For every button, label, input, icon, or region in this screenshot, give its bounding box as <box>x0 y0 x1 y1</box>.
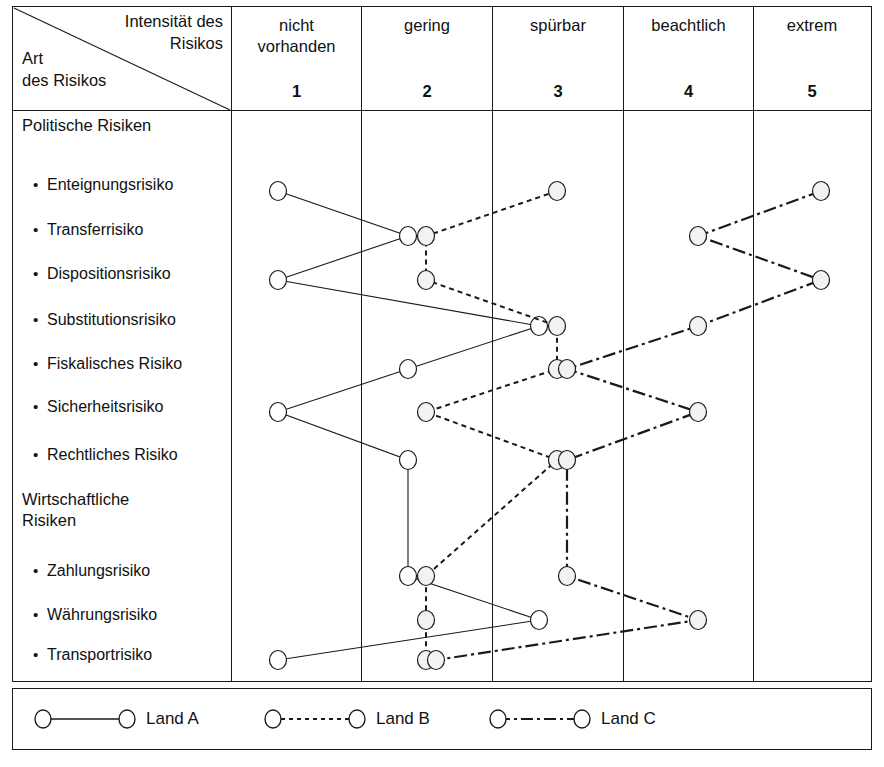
data-point[interactable] <box>400 360 417 379</box>
series-land-c <box>428 182 830 670</box>
row-label-substitutionsrisiko[interactable]: •Substitutionsrisiko <box>33 311 176 329</box>
grid-line-col0 <box>231 111 232 681</box>
data-point[interactable] <box>418 403 435 422</box>
row-label-text: Fiskalisches Risiko <box>47 355 182 372</box>
column-header-4-number: 4 <box>624 82 753 101</box>
bullet-icon: • <box>33 563 47 578</box>
column-header-1-number: 1 <box>232 82 361 101</box>
data-point[interactable] <box>549 182 566 201</box>
data-point[interactable] <box>400 567 417 586</box>
legend-label-land-a: Land A <box>146 709 199 729</box>
data-point[interactable] <box>559 360 576 379</box>
grid-line-col2 <box>492 111 493 681</box>
column-header-2-name: gering <box>362 15 492 36</box>
data-point[interactable] <box>418 651 435 670</box>
data-point[interactable] <box>270 651 287 670</box>
data-point[interactable] <box>559 567 576 586</box>
legend-item-land-b[interactable]: Land B <box>263 703 430 735</box>
data-point[interactable] <box>690 611 707 630</box>
column-header-1[interactable]: nicht vorhanden 1 <box>231 7 361 111</box>
column-header-2-number: 2 <box>362 82 492 101</box>
data-point[interactable] <box>690 317 707 336</box>
row-label-zahlungsrisiko[interactable]: •Zahlungsrisiko <box>33 562 150 580</box>
data-point[interactable] <box>270 271 287 290</box>
legend-swatch-solid-icon <box>33 708 137 730</box>
bullet-icon: • <box>33 222 47 237</box>
data-point[interactable] <box>531 317 548 336</box>
data-point[interactable] <box>531 611 548 630</box>
risk-type-axis-label: Art des Risikos <box>22 47 172 91</box>
column-header-5-number: 5 <box>754 82 870 101</box>
column-header-2[interactable]: gering 2 <box>361 7 492 111</box>
bullet-icon: • <box>33 647 47 662</box>
column-header-4[interactable]: beachtlich 4 <box>623 7 753 111</box>
header-corner-cell: Intensität des Risikos Art des Risikos <box>13 7 231 111</box>
grid-line-col1 <box>361 111 362 681</box>
legend-swatch-dashdot-icon <box>488 708 592 730</box>
bullet-icon: • <box>33 177 47 192</box>
row-label-column: Politische Risiken •Enteignungsrisiko •T… <box>13 111 231 681</box>
row-label-enteignungsrisiko[interactable]: •Enteignungsrisiko <box>33 176 173 194</box>
data-point[interactable] <box>813 182 830 201</box>
row-label-rechtliches-risiko[interactable]: •Rechtliches Risiko <box>33 446 178 464</box>
data-point[interactable] <box>270 403 287 422</box>
group-label-politische: Politische Risiken <box>22 115 151 136</box>
bullet-icon: • <box>33 447 47 462</box>
column-header-3-name: spürbar <box>493 15 623 36</box>
data-point[interactable] <box>270 182 287 201</box>
data-point[interactable] <box>418 567 435 586</box>
table-header: Intensität des Risikos Art des Risikos n… <box>13 7 871 111</box>
risk-profile-chart-page: Intensität des Risikos Art des Risikos n… <box>0 0 884 767</box>
data-point[interactable] <box>418 227 435 246</box>
row-label-text: Enteignungsrisiko <box>47 176 173 193</box>
legend-item-land-a[interactable]: Land A <box>33 703 199 735</box>
series-land-a <box>270 182 548 670</box>
series-line <box>278 191 539 660</box>
data-point[interactable] <box>428 651 445 670</box>
column-header-5[interactable]: extrem 5 <box>753 7 870 111</box>
data-point[interactable] <box>690 227 707 246</box>
row-label-text: Währungsrisiko <box>47 606 157 623</box>
row-label-transferrisiko[interactable]: •Transferrisiko <box>33 221 143 239</box>
bullet-icon: • <box>33 399 47 414</box>
row-label-text: Zahlungsrisiko <box>47 562 150 579</box>
bullet-icon: • <box>33 312 47 327</box>
row-label-text: Substitutionsrisiko <box>47 311 176 328</box>
row-label-text: Dispositionsrisiko <box>47 265 171 282</box>
column-header-3-number: 3 <box>493 82 623 101</box>
data-point[interactable] <box>549 360 566 379</box>
data-point[interactable] <box>400 227 417 246</box>
data-point[interactable] <box>690 403 707 422</box>
row-label-dispositionsrisiko[interactable]: •Dispositionsrisiko <box>33 265 171 283</box>
legend-label-land-c: Land C <box>601 709 656 729</box>
legend-label-land-b: Land B <box>376 709 430 729</box>
data-point[interactable] <box>549 317 566 336</box>
column-header-3[interactable]: spürbar 3 <box>492 7 623 111</box>
data-point[interactable] <box>813 271 830 290</box>
bullet-icon: • <box>33 266 47 281</box>
row-label-text: Transportrisiko <box>47 646 152 663</box>
bullet-icon: • <box>33 607 47 622</box>
data-point[interactable] <box>559 451 576 470</box>
row-label-sicherheitsrisiko[interactable]: •Sicherheitsrisiko <box>33 398 163 416</box>
column-header-1-name: nicht vorhanden <box>232 15 361 58</box>
group-label-wirtschaftliche: Wirtschaftliche Risiken <box>22 489 129 532</box>
grid-line-col4 <box>753 111 754 681</box>
data-point[interactable] <box>549 451 566 470</box>
grid-line-col3 <box>623 111 624 681</box>
row-label-text: Sicherheitsrisiko <box>47 398 163 415</box>
data-point[interactable] <box>418 271 435 290</box>
row-label-fiskalisches-risiko[interactable]: •Fiskalisches Risiko <box>33 355 182 373</box>
row-label-transportrisiko[interactable]: •Transportrisiko <box>33 646 152 664</box>
column-header-5-name: extrem <box>754 15 870 36</box>
legend-item-land-c[interactable]: Land C <box>488 703 656 735</box>
legend-box: Land A Land B Land C <box>12 688 872 750</box>
row-label-waehrungsrisiko[interactable]: •Währungsrisiko <box>33 606 157 624</box>
row-label-text: Transferrisiko <box>47 221 143 238</box>
bullet-icon: • <box>33 356 47 371</box>
data-point[interactable] <box>400 451 417 470</box>
table-body: Politische Risiken •Enteignungsrisiko •T… <box>13 111 871 681</box>
data-point[interactable] <box>418 611 435 630</box>
risk-table-frame: Intensität des Risikos Art des Risikos n… <box>12 6 872 682</box>
column-header-4-name: beachtlich <box>624 15 753 36</box>
